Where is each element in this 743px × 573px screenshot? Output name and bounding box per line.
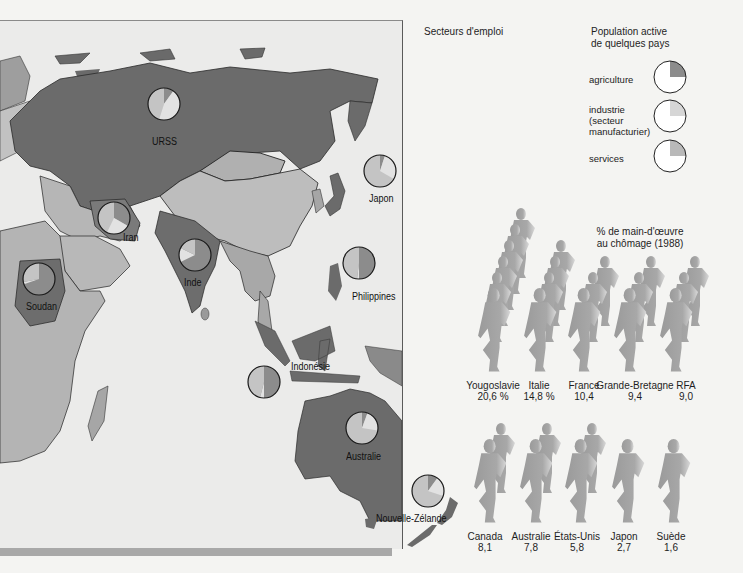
country-label-australie: Australie xyxy=(346,451,381,462)
country-label-inde: Inde xyxy=(184,277,202,288)
person-icon xyxy=(612,439,652,529)
map-frame-shadow xyxy=(0,548,392,556)
legend-label-services: services xyxy=(589,153,624,164)
legend-pie-industrie xyxy=(652,98,688,134)
pie-chart-philippines xyxy=(342,246,376,280)
pie-chart-australie xyxy=(345,411,379,445)
pie-chart-indonesie xyxy=(247,365,281,399)
country-label-urss: URSS xyxy=(152,136,177,147)
country-label-nouvelle-zelande: Nouvelle-Zélande xyxy=(376,513,447,524)
pictogram-rfa xyxy=(660,256,730,380)
pie-chart-inde xyxy=(178,238,212,272)
pie-chart-iran xyxy=(97,201,131,235)
pictogram-suede xyxy=(658,439,698,529)
legend-title: Population active de quelques pays xyxy=(591,26,669,50)
country-label-indonesie: Indonésie xyxy=(291,361,330,372)
country-label-iran: Iran xyxy=(123,232,139,243)
legend-label-agriculture: agriculture xyxy=(589,74,633,85)
legend-pie-services xyxy=(652,138,688,174)
unemployment-item-suede: Suède 1,6 xyxy=(636,531,706,553)
pie-chart-urss xyxy=(147,87,181,121)
pie-chart-soudan xyxy=(22,262,56,296)
sectors-title: Secteurs d'emploi xyxy=(424,26,503,37)
legend-pie-agriculture xyxy=(652,59,688,95)
country-label-philippines: Philippines xyxy=(352,291,396,302)
map-panel: URSS Japon Iran Inde Soudan Philippines xyxy=(0,20,403,549)
legend-label-industrie: industrie (secteur manufacturier) xyxy=(589,104,650,137)
person-stack-icon xyxy=(660,256,730,380)
unemployment-item-rfa: RFA 9,0 xyxy=(651,380,721,402)
country-label-soudan: Soudan xyxy=(26,301,57,312)
pie-chart-japon xyxy=(363,154,397,188)
person-icon xyxy=(658,439,698,529)
country-label-japon: Japon xyxy=(369,193,394,204)
unemployment-title: % de main-d'œuvre au chômage (1988) xyxy=(580,226,700,250)
pictogram-japon xyxy=(612,439,652,529)
